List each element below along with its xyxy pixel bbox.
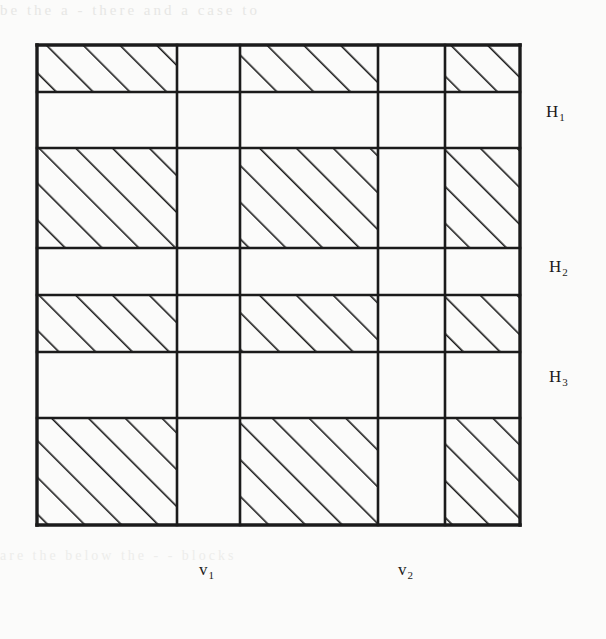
hatched-cell: [37, 418, 177, 525]
label-letter: v: [398, 560, 407, 579]
hatched-cell: [445, 148, 520, 248]
hatched-cell: [240, 148, 378, 248]
hatched-cells-layer: [37, 45, 520, 525]
label-letter: v: [199, 560, 208, 579]
label-subscript: 2: [407, 569, 414, 581]
label-subscript: 3: [561, 376, 568, 388]
label-h3: H3: [549, 368, 568, 388]
hatched-grid-figure: H1 H2 H3 v1 v2: [0, 0, 606, 639]
hatched-cell: [445, 418, 520, 525]
label-subscript: 1: [558, 111, 565, 123]
label-letter: H: [549, 367, 561, 386]
label-subscript: 2: [561, 266, 568, 278]
hatched-cell: [37, 148, 177, 248]
label-h1: H1: [546, 103, 565, 123]
hatched-cell: [240, 45, 378, 92]
hatched-cell: [445, 295, 520, 352]
label-letter: H: [546, 102, 558, 121]
label-letter: H: [549, 257, 561, 276]
hatched-cell: [37, 295, 177, 352]
hatched-cell: [240, 418, 378, 525]
hatched-cell: [240, 295, 378, 352]
hatched-cell: [37, 45, 177, 92]
grid-diagram-svg: [0, 0, 606, 639]
label-v2: v2: [398, 561, 413, 581]
label-subscript: 1: [208, 569, 215, 581]
hatched-cell: [445, 45, 520, 92]
label-v1: v1: [199, 561, 214, 581]
label-h2: H2: [549, 258, 568, 278]
